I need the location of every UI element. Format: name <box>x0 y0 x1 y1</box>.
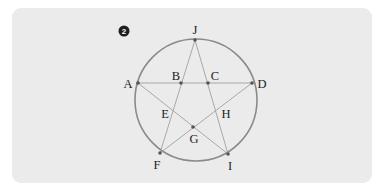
point-I <box>226 152 230 156</box>
label-E: E <box>161 107 169 121</box>
badge-number: 2 <box>122 27 127 36</box>
label-G: G <box>189 132 198 146</box>
label-C: C <box>211 69 219 83</box>
pentagram-diagram: 2 J A B C D E H G F I <box>0 0 376 190</box>
label-D: D <box>257 77 266 91</box>
point-C <box>206 81 210 85</box>
point-J <box>193 38 197 42</box>
point-A <box>136 81 140 85</box>
label-A: A <box>123 77 132 91</box>
label-J: J <box>193 23 198 37</box>
point-labels: J A B C D E H G F I <box>123 23 266 173</box>
label-F: F <box>154 158 161 172</box>
segment-JI <box>195 40 228 154</box>
label-H: H <box>221 107 230 121</box>
point-F <box>158 151 162 155</box>
label-I: I <box>228 159 232 173</box>
segment-AI <box>138 83 228 154</box>
segment-DF <box>160 83 252 153</box>
label-B: B <box>172 69 180 83</box>
point-G <box>191 125 195 129</box>
point-D <box>250 81 254 85</box>
figure-number-badge: 2 <box>119 26 130 37</box>
